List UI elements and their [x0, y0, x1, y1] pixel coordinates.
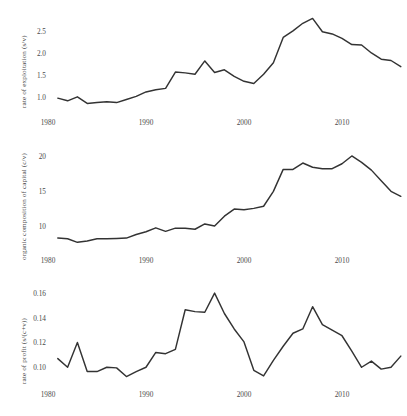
- panel-rate-of-exploitation: rate of exploitation (s/v) 1.01.52.02.51…: [0, 0, 407, 134]
- panel-2-xtick-0: 1980: [34, 390, 62, 399]
- panel-0-ytick-3: 2.5: [26, 27, 46, 36]
- panel-2-ytick-1: 0.12: [26, 338, 46, 347]
- panel-1-plot: [0, 134, 407, 274]
- panel-0-xtick-2: 2000: [230, 118, 258, 127]
- series-line: [58, 293, 401, 376]
- panel-0-xtick-0: 1980: [34, 118, 62, 127]
- panel-0-ytick-0: 1.0: [26, 93, 46, 102]
- panel-0-xtick-3: 2010: [328, 118, 356, 127]
- panel-2-xtick-1: 1990: [132, 390, 160, 399]
- panel-1-xtick-0: 1980: [34, 256, 62, 265]
- panel-2-xtick-3: 2010: [328, 390, 356, 399]
- figure-three-panel-chart: rate of exploitation (s/v) 1.01.52.02.51…: [0, 0, 407, 416]
- panel-0-ytick-1: 1.5: [26, 71, 46, 80]
- panel-0-xtick-1: 1990: [132, 118, 160, 127]
- panel-0-plot: [0, 0, 407, 134]
- panel-1-ytick-1: 15: [26, 187, 46, 196]
- panel-2-ytick-0: 0.10: [26, 363, 46, 372]
- panel-1-xtick-3: 2010: [328, 256, 356, 265]
- panel-0-ytick-2: 2.0: [26, 49, 46, 58]
- series-line: [58, 18, 401, 103]
- panel-2-xtick-2: 2000: [230, 390, 258, 399]
- panel-organic-composition: organic composition of capital (c/v) 101…: [0, 134, 407, 274]
- panel-1-xtick-2: 2000: [230, 256, 258, 265]
- series-line: [58, 156, 401, 242]
- panel-1-xtick-1: 1990: [132, 256, 160, 265]
- panel-2-ytick-3: 0.16: [26, 289, 46, 298]
- panel-1-ytick-0: 10: [26, 222, 46, 231]
- panel-2-ytick-2: 0.14: [26, 314, 46, 323]
- panel-rate-of-profit: rate of profit (s/(c+v)) 0.100.120.140.1…: [0, 274, 407, 416]
- panel-1-ytick-2: 20: [26, 152, 46, 161]
